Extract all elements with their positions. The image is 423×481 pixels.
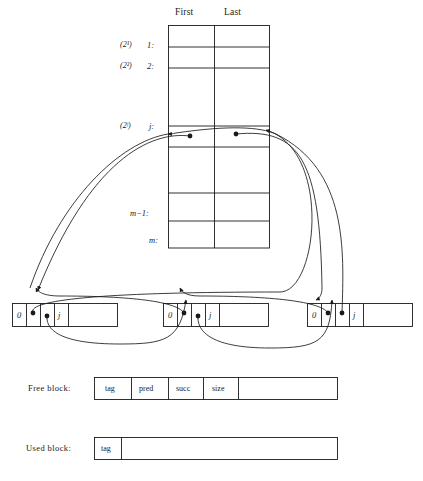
avail-row-power-j: (2ʲ) — [120, 122, 131, 130]
avail-row-power-2: (2²) — [120, 62, 132, 70]
curve-last-to-right-block — [316, 288, 322, 300]
avail-row-index-2: 2: — [147, 62, 154, 71]
avail-row-index-m-minus-1: m−1: — [130, 209, 149, 218]
curve-left-pred-to-table-last — [33, 130, 312, 313]
left-block-tag-value: 0 — [17, 311, 21, 320]
diagram-vector-layer — [0, 0, 423, 481]
middle-block-tag-value: 0 — [168, 311, 172, 320]
avail-row-power-1: (2¹) — [120, 41, 132, 49]
pointer-curves — [30, 128, 343, 348]
middle-block-size-value: j — [209, 311, 211, 320]
avail-table-header-last: Last — [224, 8, 241, 18]
legend-free-block-label: Free block: — [28, 384, 71, 393]
curve-right-succ-to-table-first — [168, 133, 176, 134]
avail-table-grid — [169, 26, 270, 249]
curve-middle-succ-to-right-block — [198, 300, 332, 348]
curve-left-succ-to-middle-block — [47, 300, 186, 344]
legend-free-cell-size: size — [212, 385, 224, 393]
legend-used-block-label: Used block: — [26, 444, 71, 453]
avail-row-index-1: 1: — [147, 41, 154, 50]
left-block-size-value: j — [58, 311, 60, 320]
legend-free-cell-pred: pred — [139, 385, 153, 393]
avail-table-header-first: First — [175, 8, 193, 18]
curve-last-down-right — [236, 133, 322, 288]
right-block-tag-value: 0 — [312, 311, 316, 320]
legend-free-cell-tag: tag — [105, 385, 115, 393]
legend-used-cell-tag: tag — [101, 445, 111, 453]
legend-free-cell-succ: succ — [176, 385, 190, 393]
figure-canvas: First Last (2¹) 1: (2²) 2: (2ʲ) j: m−1: … — [0, 0, 423, 481]
curve-first-to-left-block — [38, 135, 190, 290]
avail-row-index-j: j: — [149, 122, 154, 131]
right-block-size-value: j — [353, 311, 355, 320]
avail-row-index-m: m: — [149, 236, 158, 245]
pointer-dots — [31, 132, 345, 319]
legend-used-block-outline — [95, 438, 338, 460]
